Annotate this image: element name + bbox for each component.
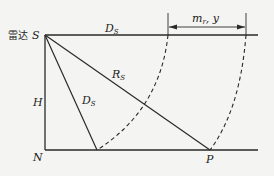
range-r-label: RS (111, 68, 125, 82)
dimension-label: mr, y (192, 12, 220, 26)
dashed-arc-outer (210, 35, 246, 150)
arrow-head-right (237, 25, 245, 30)
dashed-arc-inner (97, 35, 168, 150)
slant-d-line (45, 35, 97, 150)
diagram-canvas: 雷达 S DS RS DS H N P mr, y (0, 0, 274, 176)
top-d-label: DS (104, 22, 119, 36)
radar-label: 雷达 (8, 30, 28, 41)
arrow-head-left (169, 25, 177, 30)
height-h-label: H (32, 96, 43, 109)
point-p-label: P (205, 153, 214, 166)
range-r-line (45, 35, 210, 150)
geometry-diagram: 雷达 S DS RS DS H N P mr, y (0, 0, 274, 176)
slant-d-label: DS (81, 94, 96, 108)
point-n-label: N (32, 151, 43, 164)
point-s-label: S (32, 29, 40, 42)
